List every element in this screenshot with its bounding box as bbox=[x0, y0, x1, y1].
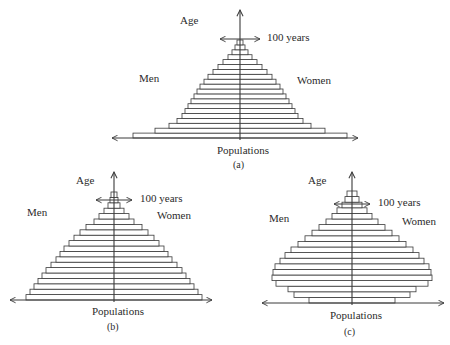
pyramid-b-women-label: Women bbox=[157, 210, 191, 221]
population-pyramids-figure bbox=[0, 0, 450, 345]
pyramid-a-women-label: Women bbox=[297, 75, 331, 86]
pyramid-c-men-label: Men bbox=[269, 213, 289, 224]
pyramid-b-100-years-label: 100 years bbox=[140, 193, 182, 204]
pyramid-c-populations-label: Populations bbox=[330, 310, 382, 321]
pyramid-c-caption: (c) bbox=[344, 327, 355, 337]
pyramid-a-caption: (a) bbox=[233, 160, 244, 170]
pyramid-a-100-years-label: 100 years bbox=[267, 32, 309, 43]
pyramid-b-caption: (b) bbox=[107, 322, 119, 332]
pyramid-a-men-label: Men bbox=[139, 73, 159, 84]
pyramid-b-men-label: Men bbox=[27, 207, 47, 218]
pyramid-c-age-label: Age bbox=[308, 175, 326, 186]
pyramid-c bbox=[262, 172, 444, 305]
pyramid-c-women-label: Women bbox=[402, 216, 436, 227]
pyramid-c-100-years-label: 100 years bbox=[378, 197, 420, 208]
pyramid-b-populations-label: Populations bbox=[92, 306, 144, 317]
pyramid-a-populations-label: Populations bbox=[217, 145, 269, 156]
pyramid-b-age-label: Age bbox=[76, 175, 94, 186]
pyramid-a-age-label: Age bbox=[180, 15, 198, 26]
